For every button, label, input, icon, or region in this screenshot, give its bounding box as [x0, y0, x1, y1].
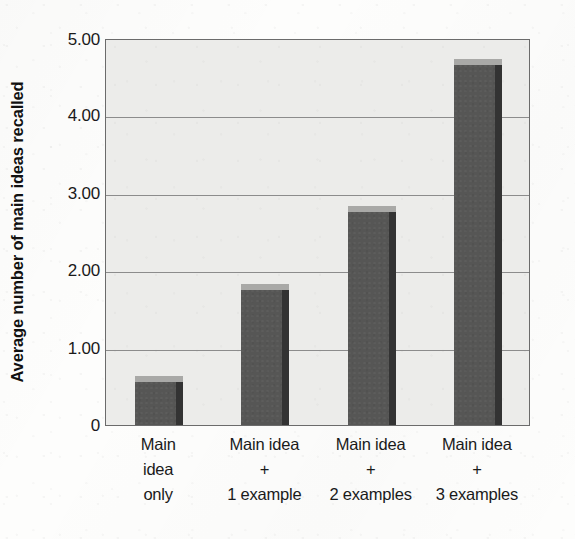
y-tick-label-3: 3.00: [48, 184, 100, 204]
x-category-line: 2 examples: [318, 482, 424, 507]
x-axis-category-labels: Main idea only Main idea + 1 example Mai…: [105, 432, 530, 532]
y-tick-label-5: 5.00: [48, 30, 100, 50]
x-category-label-1: Main idea + 1 example: [211, 432, 317, 507]
x-category-line: +: [318, 457, 424, 482]
y-axis-title: Average number of main ideas recalled: [0, 32, 34, 432]
bar-main-idea-3-examples: [454, 59, 502, 425]
x-category-line: Main idea: [424, 432, 530, 457]
bar-main-idea-2-examples: [348, 206, 396, 425]
x-category-line: Main idea: [211, 432, 317, 457]
bar-main-idea-1-example: [241, 284, 289, 425]
bar-side-face: [176, 382, 183, 425]
x-category-line: Main idea: [318, 432, 424, 457]
x-category-label-3: Main idea + 3 examples: [424, 432, 530, 507]
y-axis-tick-labels: 0 1.00 2.00 3.00 4.00 5.00: [48, 0, 100, 539]
bar-side-face: [282, 290, 289, 425]
y-tick-label-4: 4.00: [48, 106, 100, 126]
bar-front-face: [454, 65, 495, 425]
x-category-label-0: Main idea only: [105, 432, 211, 507]
x-category-line: 3 examples: [424, 482, 530, 507]
x-category-line: only: [105, 482, 211, 507]
bar-main-idea-only: [135, 376, 183, 425]
bar-front-face: [348, 212, 389, 425]
x-category-label-2: Main idea + 2 examples: [318, 432, 424, 507]
bar-side-face: [389, 212, 396, 425]
bar-chart-figure: Average number of main ideas recalled 0 …: [0, 0, 575, 539]
y-tick-label-0: 0: [48, 416, 100, 436]
x-category-line: idea: [105, 457, 211, 482]
y-tick-label-1: 1.00: [48, 339, 100, 359]
bar-side-face: [495, 65, 502, 425]
y-tick-label-2: 2.00: [48, 261, 100, 281]
plot-area: [105, 39, 530, 426]
bar-front-face: [241, 290, 282, 425]
bar-front-face: [135, 382, 176, 425]
x-category-line: Main: [105, 432, 211, 457]
x-category-line: +: [211, 457, 317, 482]
x-category-line: 1 example: [211, 482, 317, 507]
x-category-line: +: [424, 457, 530, 482]
